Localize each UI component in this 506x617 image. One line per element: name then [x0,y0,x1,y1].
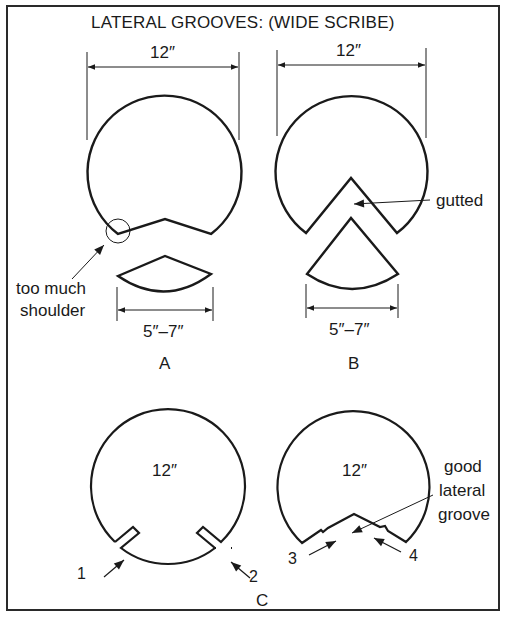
cut-arrow-4 [374,538,401,552]
figure-c-left [91,409,250,578]
callout-leader [352,495,433,533]
cut-label-4: 4 [409,548,418,564]
figure-c-right-diameter-label: 12″ [342,462,367,479]
diagram-title: LATERAL GROOVES: (WIDE SCRIBE) [91,14,395,31]
removed-wedge-b [307,218,398,289]
removed-piece-a [118,256,211,292]
figure-a-diameter-label: 12″ [150,44,175,61]
gutted-callout: gutted [436,191,483,210]
log-cross-section-b [276,96,428,233]
cut-label-2: 2 [249,569,258,585]
panel-label-a: A [159,355,170,372]
log-cross-section-a [88,96,242,234]
too-much-callout-line1: too much [16,279,86,298]
log-cross-section-c-slots [91,409,245,564]
panel-label-c: C [256,592,268,609]
callout-leader [72,245,104,279]
good-groove-callout-line2: lateral [439,481,485,500]
figure-a-piece-width-label: 5″–7″ [143,323,183,340]
cut-arrow-3 [309,541,336,555]
figure-c-left-diameter-label: 12″ [152,462,177,479]
cut-arrow-1 [104,560,124,577]
callout-leader [354,200,430,204]
good-groove-callout-line3: groove [438,505,490,524]
figure-b-diameter-label: 12″ [336,42,361,59]
cut-label-1: 1 [77,566,86,582]
figure-c-right [277,411,433,555]
panel-label-b: B [348,355,359,372]
figure-b [276,48,431,318]
figure-a [72,52,242,321]
too-much-callout-line2: shoulder [20,301,85,320]
cut-label-3: 3 [288,551,297,567]
figure-b-piece-width-label: 5″–7″ [329,321,369,338]
cut-arrow-2 [231,562,250,578]
good-groove-callout-line1: good [444,457,482,476]
